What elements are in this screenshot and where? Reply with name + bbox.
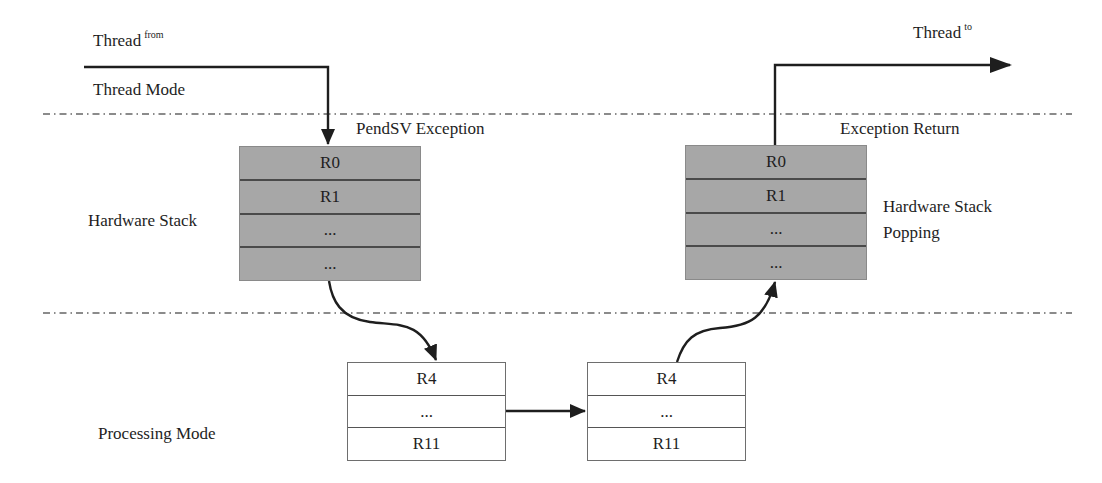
arrow-stack-to-save [329, 281, 436, 360]
software-stack-save: R4 ... R11 [347, 362, 506, 461]
stack-cell-ellipsis: ... [240, 246, 420, 280]
hardware-stack-popping-label-line2: Popping [883, 224, 940, 241]
hardware-stack-pop: R0 R1 ... ... [685, 145, 867, 280]
thread-mode-label: Thread Mode [93, 81, 185, 98]
hardware-stack-label: Hardware Stack [88, 212, 197, 229]
hardware-stack-popping-label-line1: Hardware Stack [883, 198, 992, 215]
exception-return-label: Exception Return [840, 120, 959, 137]
stack-cell-ellipsis: ... [686, 212, 866, 246]
stack-cell-r4: R4 [588, 363, 745, 395]
thread-from-label: Threadfrom [93, 32, 164, 49]
processing-mode-label: Processing Mode [98, 425, 216, 442]
thread-to-label: Threadto [913, 24, 972, 41]
stack-cell-ellipsis: ... [686, 245, 866, 279]
stack-cell-r0: R0 [240, 147, 420, 179]
stack-cell-r11: R11 [588, 427, 745, 460]
arrow-thread-from-to-stack [84, 67, 328, 144]
stack-cell-r11: R11 [348, 427, 505, 460]
stack-cell-r1: R1 [686, 178, 866, 212]
thread-to-superscript: to [964, 21, 972, 32]
pendsv-exception-label: PendSV Exception [356, 120, 485, 137]
stack-cell-ellipsis: ... [348, 395, 505, 428]
arrow-restore-to-pop [677, 282, 775, 362]
stack-cell-r1: R1 [240, 179, 420, 213]
stack-cell-r0: R0 [686, 146, 866, 178]
stack-cell-ellipsis: ... [588, 395, 745, 428]
stack-cell-r4: R4 [348, 363, 505, 395]
hardware-stack-push: R0 R1 ... ... [239, 146, 421, 281]
software-stack-restore: R4 ... R11 [587, 362, 746, 461]
stack-cell-ellipsis: ... [240, 213, 420, 247]
thread-from-superscript: from [144, 29, 163, 40]
